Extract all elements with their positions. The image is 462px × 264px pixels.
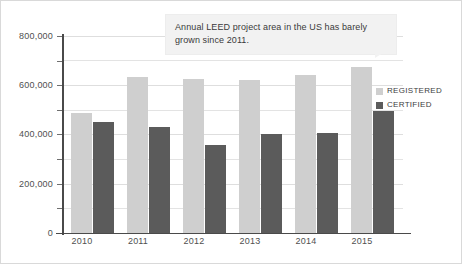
x-tick-label-2011: 2011 [108,237,168,246]
y-axis-label-group: 800,000 600,000 400,000 200,000 0 [1,1,53,264]
legend-label-registered: REGISTERED [387,87,442,95]
legend-label-certified: CERTIFIED [387,101,432,109]
gridline-700000 [63,60,403,61]
y-tick-label-800000: 800,000 [1,32,53,41]
y-axis-line [62,34,64,235]
y-tick-label-0: 0 [1,229,53,238]
x-tick-label-2010: 2010 [52,237,112,246]
x-tick-label-2012: 2012 [164,237,224,246]
legend-item-certified: CERTIFIED [376,101,442,109]
legend-item-registered: REGISTERED [376,87,442,95]
x-tick-label-2015: 2015 [332,237,392,246]
annotation-callout-tail-icon [375,49,389,58]
annotation-text: Annual LEED project area in the US has b… [175,21,387,47]
bar-certified-2011 [149,127,170,233]
chart-legend: REGISTERED CERTIFIED [376,87,442,115]
bar-certified-2010 [93,122,114,233]
bar-certified-2013 [261,134,282,233]
annotation-callout: Annual LEED project area in the US has b… [165,14,397,55]
legend-swatch-registered-icon [376,88,383,95]
bar-registered-2010 [71,113,92,233]
plot-area [63,36,403,233]
bar-registered-2014 [295,75,316,233]
y-tick-label-400000: 400,000 [1,130,53,139]
x-axis-line [56,233,411,234]
bar-registered-2015 [351,67,372,233]
legend-swatch-certified-icon [376,102,383,109]
x-tick-label-2014: 2014 [276,237,336,246]
bar-certified-2015 [373,111,394,233]
x-axis-label-group: 2010 2011 2012 2013 2014 2015 [63,237,403,257]
x-tick-label-2013: 2013 [220,237,280,246]
bar-chart-figure: 800,000 600,000 400,000 200,000 0 [0,0,462,264]
bar-registered-2012 [183,79,204,233]
bar-registered-2013 [239,80,260,233]
bar-registered-2011 [127,77,148,233]
y-tick-label-200000: 200,000 [1,180,53,189]
y-tick-label-600000: 600,000 [1,81,53,90]
bar-certified-2014 [317,133,338,233]
bar-certified-2012 [205,145,226,233]
